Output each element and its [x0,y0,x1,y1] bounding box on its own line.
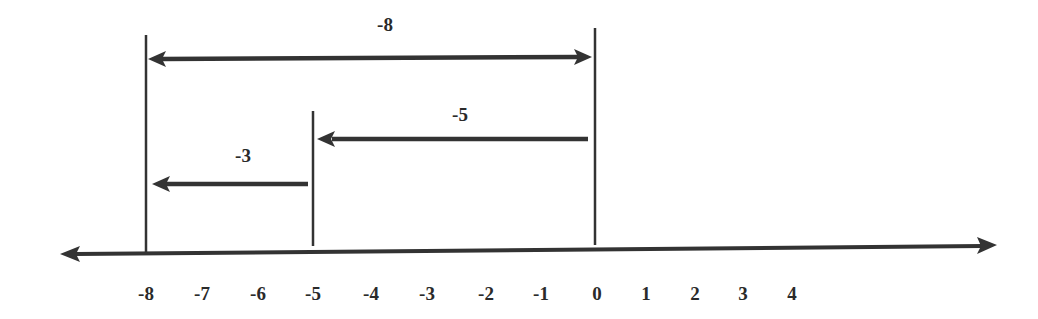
arrow-minus-3: -3 [152,145,308,192]
tick-label: -6 [250,283,266,304]
tick-label: 1 [641,283,651,304]
tick-label: -8 [138,283,154,304]
tick-label: 0 [592,283,602,304]
arrow-minus-5: -5 [317,104,588,147]
tick-label: 3 [738,283,748,304]
tick-label: -1 [533,283,549,304]
tick-label: -4 [363,283,379,304]
tick-label: 4 [787,283,797,304]
diagram-canvas: -8 -5 -3 -8 -7 -6 -5 -4 -3 -2 -1 0 1 2 3 [0,0,1038,319]
tick-labels: -8 -7 -6 -5 -4 -3 -2 -1 0 1 2 3 4 [138,283,797,304]
arrow-minus-8: -8 [148,14,592,67]
tick-label: -5 [305,283,321,304]
tick-label: -3 [419,283,435,304]
tick-label: 2 [690,283,700,304]
number-line-axis [60,237,997,262]
arrow-label: -3 [235,145,251,166]
arrow-label: -5 [452,104,468,125]
arrow-label: -8 [377,14,393,35]
number-line-diagram: -8 -5 -3 -8 -7 -6 -5 -4 -3 -2 -1 0 1 2 3 [0,0,1038,319]
tick-label: -7 [194,283,210,304]
tick-label: -2 [478,283,494,304]
